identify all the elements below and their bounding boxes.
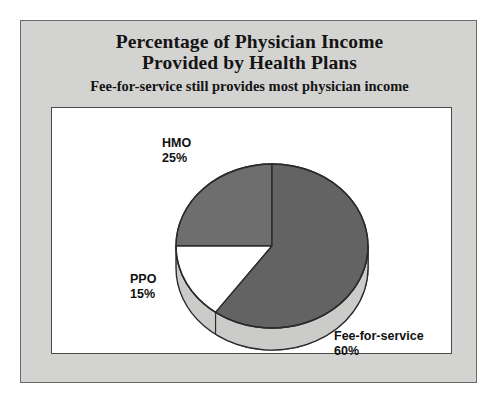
slice-label-ffs-name: Fee-for-service [334, 329, 424, 343]
chart-title-line-2: Provided by Health Plans [21, 52, 478, 73]
slice-label-hmo: HMO 25% [162, 136, 191, 165]
slice-label-fee-for-service: Fee-for-service 60% [334, 329, 424, 358]
chart-title-line-1: Percentage of Physician Income [21, 31, 478, 52]
slice-label-hmo-pct: 25% [162, 151, 191, 166]
slice-label-ppo-pct: 15% [130, 287, 156, 302]
slice-label-ppo: PPO 15% [130, 272, 156, 301]
slice-label-ffs-pct: 60% [334, 344, 424, 359]
plot-area: HMO 25% PPO 15% Fee-for-service 60% [51, 107, 452, 354]
chart-title-block: Percentage of Physician Income Provided … [21, 31, 478, 73]
pie-chart [52, 108, 453, 355]
slice-label-hmo-name: HMO [162, 136, 191, 150]
chart-panel: Percentage of Physician Income Provided … [20, 20, 477, 383]
pie-slice-hmo [176, 164, 272, 246]
figure-root: Percentage of Physician Income Provided … [0, 0, 498, 404]
chart-subtitle: Fee-for-service still provides most phys… [21, 78, 478, 95]
pie-top-face [176, 164, 368, 328]
slice-label-ppo-name: PPO [130, 272, 156, 286]
pie-group [176, 164, 368, 350]
